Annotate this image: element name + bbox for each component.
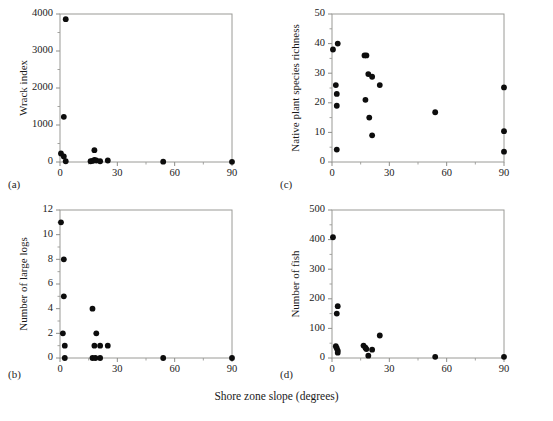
data-point [97, 355, 103, 361]
y-tick-label: 1000 [32, 118, 53, 129]
data-point [365, 353, 371, 359]
x-tick-label: 90 [227, 363, 238, 374]
panel-label-d: (d) [280, 368, 293, 380]
data-point [501, 85, 507, 91]
x-tick-label: 0 [329, 363, 334, 374]
data-point [61, 256, 67, 262]
y-tick-label: 8 [48, 253, 53, 264]
data-point [61, 114, 67, 120]
data-point [335, 350, 341, 356]
plot-frame [332, 14, 504, 162]
plot-frame [60, 210, 232, 358]
data-point [333, 82, 339, 88]
x-tick-label: 90 [499, 167, 510, 178]
data-point [334, 103, 340, 109]
y-tick-label: 10 [315, 126, 326, 137]
y-axis-title: Number of large logs [17, 237, 29, 331]
data-point [335, 41, 341, 47]
data-point [364, 346, 370, 352]
y-tick-label: 6 [48, 277, 53, 288]
x-tick-label: 0 [329, 167, 334, 178]
data-series [58, 16, 235, 164]
x-tick-label: 90 [499, 363, 510, 374]
y-tick-label: 0 [320, 155, 325, 166]
data-point [364, 53, 370, 59]
y-tick-label: 300 [309, 263, 325, 274]
plot-frame [332, 210, 504, 358]
data-point [501, 128, 507, 134]
shared-x-axis-title: Shore zone slope (degrees) [0, 390, 553, 402]
y-tick-label: 400 [309, 233, 325, 244]
data-point [229, 159, 235, 165]
data-point [369, 74, 375, 80]
y-tick-label: 30 [315, 67, 326, 78]
data-point [229, 355, 235, 361]
data-point [97, 343, 103, 349]
y-tick-label: 0 [48, 351, 53, 362]
data-point [105, 343, 111, 349]
y-axis-title: Number of fish [289, 250, 301, 318]
data-point [160, 355, 166, 361]
x-tick-label: 0 [57, 167, 62, 178]
data-point [58, 219, 64, 225]
data-series [58, 219, 235, 360]
data-point [366, 115, 372, 121]
x-tick-label: 30 [112, 167, 123, 178]
y-tick-label: 0 [48, 155, 53, 166]
panel-b-large-logs: 0246810120306090Number of large logs [16, 204, 240, 380]
x-tick-label: 0 [57, 363, 62, 374]
data-point [369, 132, 375, 138]
x-tick-label: 30 [384, 363, 395, 374]
data-point [330, 234, 336, 240]
data-point [334, 147, 340, 153]
panel-label-c: (c) [280, 178, 292, 190]
y-tick-label: 40 [315, 37, 326, 48]
panel-d-number-of-fish: 01002003004005000306090Number of fish [288, 204, 512, 380]
data-point [62, 343, 68, 349]
data-series [330, 41, 507, 155]
x-tick-label: 30 [112, 363, 123, 374]
figure-container: 010002000300040000306090Wrack index (a) … [0, 0, 553, 421]
y-tick-label: 50 [315, 7, 326, 18]
data-point [60, 330, 66, 336]
y-tick-label: 0 [320, 351, 325, 362]
y-tick-label: 500 [309, 203, 325, 214]
data-point [62, 355, 68, 361]
data-point [369, 347, 375, 353]
y-tick-label: 4000 [32, 7, 53, 18]
data-point [97, 158, 103, 164]
data-point [330, 47, 336, 53]
data-point [334, 91, 340, 97]
y-axis-title: Wrack index [17, 59, 29, 116]
x-tick-label: 60 [169, 363, 180, 374]
data-point [93, 330, 99, 336]
data-point [92, 343, 98, 349]
data-point [363, 97, 369, 103]
y-tick-label: 2000 [32, 81, 53, 92]
x-tick-label: 30 [384, 167, 395, 178]
plot-frame [60, 14, 232, 162]
data-point [63, 158, 69, 164]
data-point [63, 16, 69, 22]
data-point [501, 149, 507, 155]
x-tick-label: 90 [227, 167, 238, 178]
y-tick-label: 12 [43, 203, 54, 214]
y-tick-label: 2 [48, 327, 53, 338]
x-tick-label: 60 [441, 363, 452, 374]
data-point [90, 306, 96, 312]
data-point [160, 159, 166, 165]
panel-a-wrack-index: 010002000300040000306090Wrack index [16, 8, 240, 184]
data-point [377, 82, 383, 88]
data-point [334, 311, 340, 317]
panel-label-a: (a) [8, 178, 20, 190]
data-point [92, 147, 98, 153]
data-point [432, 354, 438, 360]
y-axis-title: Native plant species richness [289, 24, 301, 151]
data-point [377, 333, 383, 339]
data-point [105, 158, 111, 164]
data-point [432, 109, 438, 115]
data-point [335, 303, 341, 309]
data-series [330, 234, 507, 359]
y-tick-label: 10 [43, 228, 54, 239]
panel-label-b: (b) [8, 368, 21, 380]
